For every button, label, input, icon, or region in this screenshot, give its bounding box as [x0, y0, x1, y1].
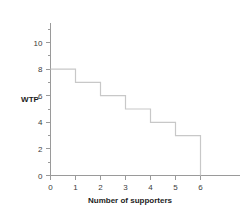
y-tick-label: 2 — [38, 145, 43, 154]
x-tick-label: 4 — [148, 183, 153, 192]
wtp-step-chart: 02468100123456WTPNumber of supporters — [0, 0, 246, 215]
y-axis-title: WTP — [21, 95, 39, 104]
y-tick-label: 4 — [38, 118, 43, 127]
y-tick-label: 8 — [38, 65, 43, 74]
wtp-step-curve — [51, 69, 201, 175]
x-tick-label: 6 — [198, 183, 203, 192]
x-tick-label: 3 — [123, 183, 128, 192]
y-tick-label: 0 — [38, 172, 43, 181]
x-tick-label: 1 — [73, 183, 78, 192]
y-tick-label: 10 — [34, 39, 43, 48]
x-tick-label: 5 — [173, 183, 178, 192]
chart-canvas: 02468100123456WTPNumber of supporters — [0, 0, 246, 215]
x-axis-title: Number of supporters — [88, 196, 173, 205]
x-tick-label: 2 — [98, 183, 103, 192]
x-tick-label: 0 — [48, 183, 53, 192]
